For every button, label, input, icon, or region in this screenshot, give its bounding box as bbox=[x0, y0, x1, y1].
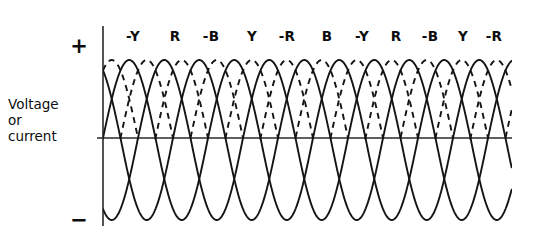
wave-trace-Y bbox=[103, 60, 512, 220]
waveform-figure: Voltage or current + − -YR-BY-RB-YR-BY-R bbox=[0, 0, 536, 232]
waveform-traces bbox=[103, 60, 512, 220]
phase-label-4: -R bbox=[279, 28, 296, 44]
phase-label-2: -B bbox=[203, 28, 220, 44]
phase-label-9: Y bbox=[457, 28, 468, 44]
y-axis-title-line-1: Voltage bbox=[8, 96, 100, 112]
phase-label-7: R bbox=[391, 28, 402, 44]
positive-sign-label: + bbox=[70, 34, 88, 58]
negative-sign-label: − bbox=[70, 208, 88, 232]
phase-label-1: R bbox=[170, 28, 181, 44]
phase-label-3: Y bbox=[246, 28, 257, 44]
phase-label-5: B bbox=[322, 28, 333, 44]
wave-trace-B bbox=[103, 60, 512, 220]
phase-label-10: -R bbox=[486, 28, 503, 44]
wave-trace-negB bbox=[103, 60, 512, 138]
y-axis-title: Voltage or current bbox=[8, 96, 100, 144]
phase-label-6: -Y bbox=[355, 28, 369, 44]
phase-label-8: -B bbox=[422, 28, 439, 44]
y-axis-title-line-3: current bbox=[8, 128, 100, 144]
wave-trace-R bbox=[103, 60, 512, 220]
phase-label-row: -YR-BY-RB-YR-BY-R bbox=[126, 28, 503, 44]
y-axis-title-line-2: or bbox=[8, 112, 100, 128]
phase-label-0: -Y bbox=[126, 28, 140, 44]
